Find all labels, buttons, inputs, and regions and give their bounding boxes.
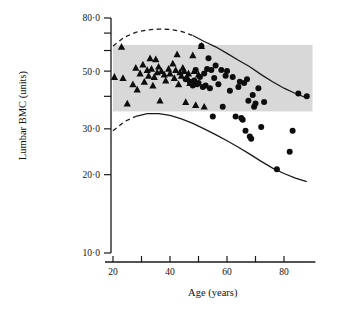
y-axis-title: Lumbar BMC (units): [17, 70, 29, 160]
point-postmenopausal: [218, 67, 224, 73]
lower-limit-solid: [136, 114, 307, 182]
point-postmenopausal: [244, 76, 250, 82]
point-postmenopausal: [206, 55, 212, 61]
upper-limit-dashed: [113, 29, 193, 46]
point-postmenopausal: [235, 84, 241, 90]
x-tick-label: 60: [222, 267, 232, 277]
point-postmenopausal: [250, 92, 256, 98]
point-postmenopausal: [255, 85, 261, 91]
point-postmenopausal: [230, 74, 236, 80]
y-tick-label: 30·0: [83, 124, 101, 134]
point-postmenopausal: [290, 128, 296, 134]
x-tick-label: 80: [279, 267, 289, 277]
point-postmenopausal: [258, 124, 264, 130]
x-tick-label: 20: [108, 267, 118, 277]
scatter-plot: 10·020·030·050·080·020406080 Age (years)…: [0, 0, 339, 313]
y-tick-label: 20·0: [83, 170, 101, 180]
y-tick-label: 80·0: [83, 13, 101, 23]
point-postmenopausal: [287, 149, 293, 155]
point-postmenopausal: [224, 68, 230, 74]
point-postmenopausal: [261, 99, 267, 105]
point-postmenopausal: [211, 75, 217, 81]
point-postmenopausal: [248, 136, 254, 142]
point-postmenopausal: [233, 113, 239, 119]
point-postmenopausal: [215, 81, 221, 87]
lower-limit-dashed: [113, 116, 136, 130]
point-postmenopausal: [207, 85, 213, 91]
point-postmenopausal: [295, 91, 301, 97]
x-tick-label: 40: [165, 267, 175, 277]
point-postmenopausal: [274, 166, 280, 172]
point-postmenopausal: [220, 104, 226, 110]
point-postmenopausal: [210, 113, 216, 119]
y-tick-label: 10·0: [83, 248, 101, 258]
point-postmenopausal: [243, 128, 249, 134]
point-postmenopausal: [240, 117, 246, 123]
chart-figure: 10·020·030·050·080·020406080 Age (years)…: [0, 0, 339, 313]
y-tick-label: 50·0: [83, 67, 101, 77]
point-postmenopausal: [245, 98, 251, 104]
point-postmenopausal: [193, 67, 199, 73]
point-postmenopausal: [253, 101, 259, 107]
point-postmenopausal: [213, 63, 219, 69]
point-postmenopausal: [304, 93, 310, 99]
point-postmenopausal: [227, 88, 233, 94]
x-axis-title: Age (years): [188, 287, 238, 299]
point-postmenopausal: [208, 67, 214, 73]
point-postmenopausal: [198, 43, 204, 49]
